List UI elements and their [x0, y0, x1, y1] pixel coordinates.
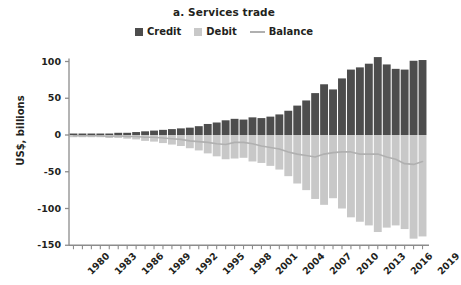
bar-debit — [347, 135, 355, 217]
bar-debit — [356, 135, 364, 222]
bar-credit — [87, 134, 95, 135]
bar-debit — [231, 135, 239, 159]
bar-credit — [105, 134, 113, 135]
bar-credit — [302, 100, 310, 135]
bar-credit — [392, 69, 400, 135]
bar-credit — [338, 78, 346, 135]
bar-credit — [70, 134, 78, 135]
bar-credit — [168, 129, 176, 135]
bar-credit — [356, 67, 364, 135]
bar-debit — [374, 135, 382, 232]
bar-debit — [168, 135, 176, 145]
bar-debit — [293, 135, 301, 184]
bar-credit — [177, 128, 185, 135]
bar-credit — [419, 60, 427, 135]
bar-credit — [374, 57, 382, 135]
bar-debit — [240, 135, 248, 158]
bar-credit — [293, 106, 301, 135]
bar-debit — [338, 135, 346, 209]
bar-debit — [401, 135, 409, 229]
bar-debit — [249, 135, 257, 161]
bar-credit — [186, 128, 194, 135]
bar-debit — [383, 135, 391, 228]
bar-debit — [311, 135, 319, 199]
bar-credit — [195, 126, 203, 135]
bar-debit — [275, 135, 283, 170]
bar-credit — [150, 131, 158, 135]
bar-debit — [320, 135, 328, 205]
bar-debit — [222, 135, 230, 159]
bar-debit — [213, 135, 221, 156]
bar-credit — [365, 64, 373, 135]
bar-debit — [266, 135, 274, 166]
bar-debit — [410, 135, 418, 239]
bar-credit — [410, 61, 418, 135]
bar-debit — [257, 135, 265, 163]
bar-credit — [132, 132, 140, 135]
bar-credit — [141, 131, 149, 135]
bar-debit — [302, 135, 310, 190]
bar-debit — [329, 135, 337, 198]
bar-debit — [392, 135, 400, 225]
bar-debit — [150, 135, 158, 142]
bar-credit — [275, 114, 283, 135]
bar-credit — [284, 111, 292, 135]
bar-credit — [159, 130, 167, 135]
bar-credit — [320, 84, 328, 135]
bar-debit — [159, 135, 167, 143]
bar-credit — [266, 117, 274, 135]
bar-credit — [240, 120, 248, 135]
bar-credit — [231, 119, 239, 135]
bar-credit — [249, 117, 257, 135]
bar-credit — [123, 133, 131, 135]
bar-credit — [222, 120, 230, 135]
bar-credit — [204, 124, 212, 135]
bar-debit — [419, 135, 427, 236]
bar-credit — [78, 134, 86, 135]
bar-credit — [114, 133, 122, 135]
bar-debit — [365, 135, 373, 225]
bar-credit — [329, 89, 337, 135]
bar-credit — [213, 123, 221, 135]
bar-credit — [401, 70, 409, 135]
bar-debit — [195, 135, 203, 150]
bar-credit — [383, 64, 391, 135]
bar-credit — [257, 118, 265, 135]
bar-debit — [204, 135, 212, 153]
bar-credit — [347, 70, 355, 135]
bar-credit — [311, 93, 319, 135]
bar-credit — [96, 134, 104, 135]
bar-debit — [284, 135, 292, 176]
